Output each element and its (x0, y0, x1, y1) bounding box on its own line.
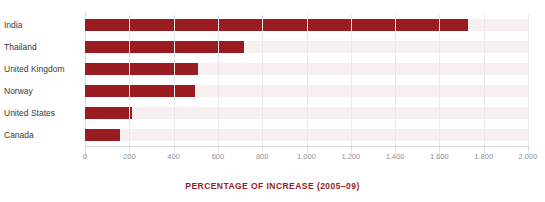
x-tick-label: 200 (123, 152, 136, 161)
category-label-thailand: Thailand (4, 41, 37, 53)
tick-mark (528, 146, 529, 150)
bar-row (85, 107, 528, 119)
bar-track (85, 129, 528, 141)
x-tick-label: 400 (167, 152, 180, 161)
x-tick-label: 600 (212, 152, 225, 161)
category-label-united-states: United States (4, 107, 55, 119)
bar-row (85, 63, 528, 75)
category-axis-labels: IndiaThailandUnited KingdomNorwayUnited … (0, 14, 80, 146)
bar-row (85, 19, 528, 31)
bar-track (85, 107, 528, 119)
tick-mark (351, 146, 352, 150)
plot-area (85, 14, 528, 146)
tick-mark (174, 146, 175, 150)
x-tick-label: 1.400 (386, 152, 405, 161)
bar-chart: IndiaThailandUnited KingdomNorwayUnited … (0, 0, 545, 202)
x-tick-label: 0 (83, 152, 87, 161)
x-axis-ticks: 02004006008001.0001.2001.4001.6001.8002.… (85, 152, 528, 166)
bar-row (85, 85, 528, 97)
x-tick-label: 1.800 (474, 152, 493, 161)
x-tick-label: 1.600 (430, 152, 449, 161)
tick-mark (129, 146, 130, 150)
bar-rows (85, 14, 528, 146)
bar-norway (85, 85, 195, 97)
bar-united-kingdom (85, 63, 198, 75)
tick-mark (484, 146, 485, 150)
tick-mark (262, 146, 263, 150)
bar-row (85, 41, 528, 53)
bar-canada (85, 129, 120, 141)
clipped-top-text (0, 0, 545, 3)
category-label-india: India (4, 19, 22, 31)
tick-mark (395, 146, 396, 150)
x-tick-label: 2.000 (519, 152, 538, 161)
gridline (528, 14, 529, 155)
tick-mark (218, 146, 219, 150)
x-tick-label: 1.000 (297, 152, 316, 161)
tick-mark (85, 146, 86, 150)
x-tick-label: 800 (256, 152, 269, 161)
bar-row (85, 129, 528, 141)
category-label-united-kingdom: United Kingdom (4, 63, 64, 75)
tick-mark (307, 146, 308, 150)
tick-mark (439, 146, 440, 150)
x-axis-title: PERCENTAGE OF INCREASE (2005–09) (0, 181, 545, 191)
category-label-canada: Canada (4, 129, 34, 141)
x-tick-label: 1.200 (341, 152, 360, 161)
bar-thailand (85, 41, 244, 53)
category-label-norway: Norway (4, 85, 33, 97)
bar-india (85, 19, 468, 31)
bar-united-states (85, 107, 132, 119)
